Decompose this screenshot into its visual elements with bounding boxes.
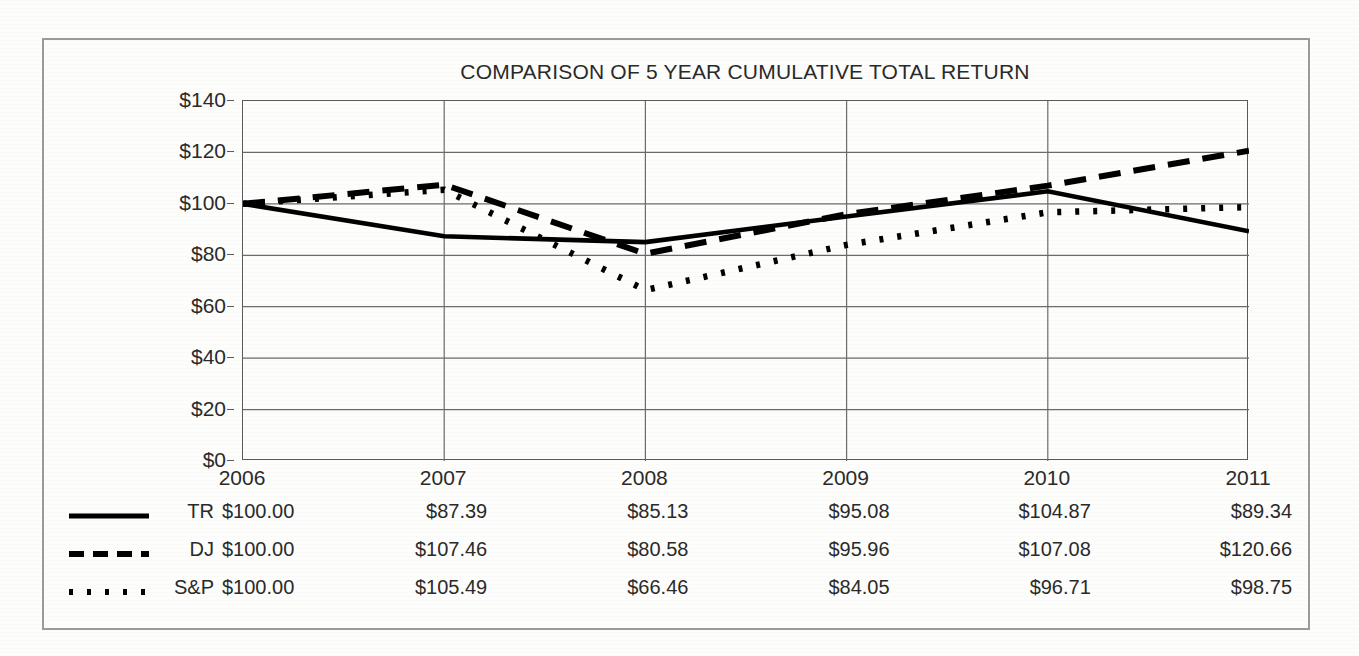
x-axis-tick-label: 2008 bbox=[621, 466, 668, 490]
series-lines bbox=[243, 101, 1249, 461]
y-axis-tick-mark bbox=[227, 100, 234, 101]
y-axis-tick-label: $20 bbox=[191, 397, 226, 421]
legend-row: S&P$100.00$105.49$66.46$84.05$96.71$98.7… bbox=[60, 576, 1300, 610]
x-axis-tick-label: 2009 bbox=[822, 466, 869, 490]
x-axis-tick-label: 2006 bbox=[219, 466, 266, 490]
y-axis-tick-mark bbox=[227, 409, 234, 410]
y-axis-tick-label: $100 bbox=[179, 191, 226, 215]
y-axis-tick-mark bbox=[227, 254, 234, 255]
chart-title: COMPARISON OF 5 YEAR CUMULATIVE TOTAL RE… bbox=[242, 60, 1248, 84]
series-line-s-p bbox=[243, 190, 1249, 290]
series-line-tr bbox=[243, 191, 1249, 242]
y-axis-tick-mark bbox=[227, 357, 234, 358]
y-axis-tick-label: $140 bbox=[179, 88, 226, 112]
y-axis-tick-label: $80 bbox=[191, 242, 226, 266]
data-cell: $120.66 bbox=[60, 538, 1292, 561]
x-axis-tick-label: 2007 bbox=[420, 466, 467, 490]
legend-row: DJ$100.00$107.46$80.58$95.96$107.08$120.… bbox=[60, 538, 1300, 572]
y-axis: $140$120$100$80$60$40$20$0 bbox=[150, 100, 234, 460]
y-axis-tick-label: $120 bbox=[179, 139, 226, 163]
legend-row: TR$100.00$87.39$85.13$95.08$104.87$89.34 bbox=[60, 500, 1300, 534]
data-cell: $98.75 bbox=[60, 576, 1292, 599]
y-axis-tick-mark bbox=[227, 203, 234, 204]
x-axis-tick-label: 2011 bbox=[1225, 466, 1270, 490]
y-axis-tick-label: $40 bbox=[191, 345, 226, 369]
x-axis: 200620072008200920102011 bbox=[242, 466, 1248, 496]
plot-area bbox=[242, 100, 1248, 460]
y-axis-tick-mark bbox=[227, 460, 234, 461]
data-cell: $89.34 bbox=[60, 500, 1292, 523]
y-axis-tick-mark bbox=[227, 151, 234, 152]
y-axis-tick-label: $60 bbox=[191, 294, 226, 318]
legend-data-table: TR$100.00$87.39$85.13$95.08$104.87$89.34… bbox=[60, 500, 1300, 620]
x-axis-tick-label: 2010 bbox=[1023, 466, 1070, 490]
y-axis-tick-mark bbox=[227, 306, 234, 307]
